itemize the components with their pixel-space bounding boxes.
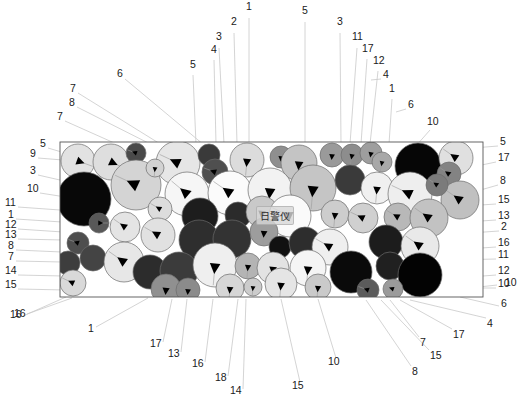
- patent-figure-canvas: 1234553111712416106787593101111213871415…: [0, 0, 526, 399]
- particle: [265, 268, 297, 300]
- reference-label-bottom: 1: [88, 323, 94, 334]
- reference-label-bottom-leader-line: [181, 299, 187, 352]
- particle: [398, 253, 442, 297]
- figure-svg: [0, 0, 526, 399]
- reference-label-top-leader-line: [340, 33, 341, 144]
- reference-label-bottom: 16: [192, 358, 204, 369]
- reference-label-bottom: 17: [453, 329, 465, 340]
- reference-label-bottom-leader-line: [243, 299, 246, 389]
- reference-label-left-leader-line: [18, 207, 60, 210]
- particle: [176, 278, 200, 302]
- reference-label-top: 5: [302, 5, 308, 16]
- reference-label-top: 6: [408, 99, 414, 110]
- reference-label-top: 4: [211, 44, 217, 55]
- reference-label-top: 10: [427, 116, 439, 127]
- reference-label-left-leader-line: [18, 239, 63, 240]
- reference-label-right: 8: [500, 175, 506, 186]
- reference-label-left: 13: [5, 229, 17, 240]
- reference-label-right: 12: [498, 265, 510, 276]
- reference-label-bottom-leader-line: [163, 299, 172, 342]
- reference-label-left-leader-line: [18, 275, 63, 276]
- reference-label-left-leader-line: [18, 289, 66, 290]
- reference-label-top-leader-line: [361, 59, 367, 144]
- particle-circle: [80, 245, 106, 271]
- reference-label-bottom-leader-line: [390, 300, 419, 337]
- reference-label-top-leader-line: [396, 109, 406, 112]
- reference-label-left: 9: [30, 148, 36, 159]
- reference-label-top: 3: [216, 31, 222, 42]
- reference-label-top-leader-line: [125, 79, 210, 150]
- reference-label-top-leader-line: [350, 48, 357, 144]
- particle: [372, 152, 392, 172]
- reference-label-top: 6: [117, 68, 123, 79]
- reference-label-left: 15: [5, 279, 17, 290]
- reference-label-right-leader-line: [460, 297, 499, 306]
- reference-label-bottom-leader-line: [27, 298, 72, 314]
- particle: [244, 278, 262, 296]
- particle-circle: [335, 165, 365, 195]
- reference-label-bottom-leader-line: [318, 299, 336, 358]
- reference-label-right: 5: [500, 136, 506, 147]
- reference-label-bottom: 7: [420, 337, 426, 348]
- reference-label-top-leader-line: [219, 48, 224, 144]
- reference-label-left: 14: [5, 265, 17, 276]
- reference-label-top: 7: [70, 83, 76, 94]
- particle-circle: [398, 253, 442, 297]
- reference-label-bottom-leader-line: [400, 300, 452, 329]
- particle: [361, 172, 393, 204]
- particle: [146, 159, 164, 177]
- reference-label-bottom: 15: [430, 350, 442, 361]
- watermark-text: 日警仪: [256, 206, 294, 225]
- particle: [305, 274, 331, 300]
- particle: [110, 212, 140, 242]
- particle: [341, 144, 363, 166]
- reference-label-top: 2: [231, 16, 237, 27]
- reference-label-left: 3: [30, 165, 36, 176]
- reference-label-bottom-leader-line: [96, 298, 148, 327]
- reference-label-left: 7: [8, 251, 14, 262]
- reference-label-bottom: 13: [168, 348, 180, 359]
- particle: [335, 165, 365, 195]
- reference-label-left-leader-line: [16, 219, 62, 222]
- particle: [216, 274, 244, 302]
- reference-label-left-leader-line: [18, 229, 63, 232]
- reference-label-top-leader-line: [234, 33, 237, 144]
- reference-label-bottom: 15: [292, 380, 304, 391]
- reference-label-bottom-leader-line: [410, 300, 486, 318]
- reference-label-top: 1: [389, 83, 395, 94]
- particle: [141, 218, 175, 252]
- reference-label-top-leader-line: [370, 71, 378, 144]
- reference-label-left-leader-line: [16, 261, 62, 262]
- reference-label-left: 8: [8, 240, 14, 251]
- reference-label-top-leader-line: [193, 75, 196, 144]
- reference-label-top: 7: [57, 111, 63, 122]
- reference-label-bottom: 4: [487, 318, 493, 329]
- reference-label-bottom: 18: [215, 372, 227, 383]
- reference-label-bottom-leader-line: [228, 299, 238, 376]
- particle: [321, 200, 349, 228]
- reference-label-top: 12: [373, 55, 385, 66]
- reference-label-top: 11: [352, 31, 363, 42]
- reference-label-right: 13: [498, 210, 510, 221]
- reference-label-bottom: 10: [328, 356, 340, 367]
- reference-label-top: 3: [337, 16, 343, 27]
- reference-label-top-leader-line: [214, 60, 216, 144]
- reference-label-bottom: 14: [230, 385, 242, 396]
- reference-label-bottom: 8: [412, 366, 418, 377]
- reference-label-bottom: 16: [14, 308, 26, 319]
- reference-label-top: 8: [69, 97, 75, 108]
- reference-label-right: 11: [498, 249, 509, 260]
- reference-label-top: 17: [362, 43, 374, 54]
- reference-label-bottom: 17: [150, 338, 162, 349]
- reference-label-bottom-leader-line: [366, 300, 411, 366]
- particle: [80, 245, 106, 271]
- particle: [348, 203, 378, 233]
- reference-label-bottom-leader-line: [281, 299, 300, 382]
- reference-label-bottom: 10: [505, 277, 517, 288]
- reference-label-right: 16: [498, 237, 510, 248]
- particle: [426, 174, 448, 196]
- reference-label-right: 2: [501, 221, 507, 232]
- particle: [148, 197, 172, 221]
- reference-label-left-leader-line: [16, 250, 62, 252]
- reference-label-left: 10: [27, 183, 39, 194]
